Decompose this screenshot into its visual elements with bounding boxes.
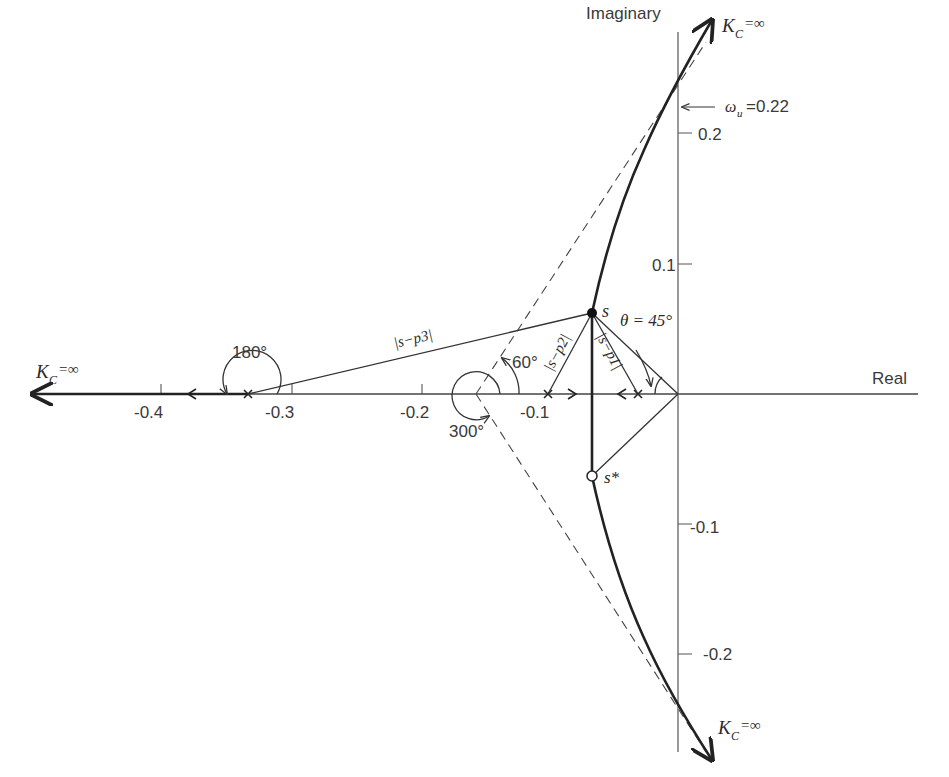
x-tick-label: -0.1 bbox=[520, 403, 549, 422]
svg-text:C: C bbox=[735, 27, 744, 41]
theta-label: θ = 45° bbox=[620, 311, 672, 330]
imaginary-axis-label: Imaginary bbox=[586, 4, 661, 23]
svg-text:=∞: =∞ bbox=[58, 361, 79, 377]
s-point bbox=[587, 308, 597, 318]
svg-text:K: K bbox=[721, 15, 736, 36]
kc-label-top: K C =∞ bbox=[721, 15, 765, 41]
angle-180-label: 180° bbox=[232, 343, 267, 362]
svg-text:=∞: =∞ bbox=[744, 15, 765, 31]
kc-label-left: K C =∞ bbox=[35, 361, 79, 387]
root-locus-diagram: -0.4 -0.3 -0.2 -0.1 0.2 0.1 -0.1 -0.2 Im… bbox=[0, 0, 949, 777]
root-locus-branches bbox=[32, 20, 712, 760]
x-tick-label: -0.2 bbox=[400, 403, 429, 422]
svg-text:K: K bbox=[35, 361, 50, 382]
vector-sp1-label: |s−p1| bbox=[593, 330, 626, 372]
svg-text:C: C bbox=[731, 729, 740, 743]
s-conjugate-point bbox=[587, 471, 597, 481]
svg-text:u: u bbox=[737, 107, 743, 119]
svg-text:ω: ω bbox=[725, 98, 736, 115]
angle-300-label: 300° bbox=[449, 422, 484, 441]
kc-label-bottom: K C =∞ bbox=[717, 717, 761, 743]
svg-text:=∞: =∞ bbox=[740, 717, 761, 733]
y-tick-label: -0.2 bbox=[703, 645, 732, 664]
y-tick-label: 0.2 bbox=[698, 125, 722, 144]
omega-u-annotation: ω u =0.22 bbox=[682, 97, 789, 119]
real-axis-label: Real bbox=[872, 369, 907, 388]
s-star-label: s* bbox=[604, 468, 620, 487]
svg-text:C: C bbox=[49, 373, 58, 387]
y-tick-label: 0.1 bbox=[652, 256, 676, 275]
svg-text:=0.22: =0.22 bbox=[746, 97, 789, 116]
s-label: s bbox=[602, 301, 609, 321]
angle-60-label: 60° bbox=[512, 353, 538, 372]
x-tick-label: -0.3 bbox=[265, 403, 294, 422]
vector-sp2-label: |s−p2| bbox=[541, 331, 574, 373]
vector-sp3-label: |s−p3| bbox=[392, 327, 434, 351]
svg-text:K: K bbox=[717, 717, 732, 738]
axes bbox=[30, 32, 918, 752]
y-tick-label: -0.1 bbox=[690, 518, 719, 537]
x-tick-label: -0.4 bbox=[134, 403, 163, 422]
